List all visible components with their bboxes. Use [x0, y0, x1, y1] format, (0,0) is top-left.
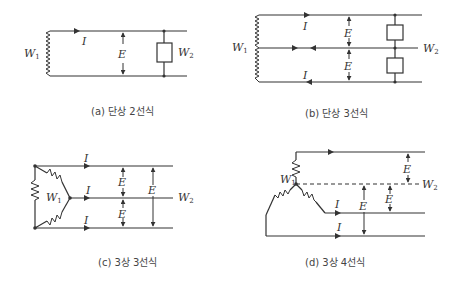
source-coil-icon — [255, 15, 259, 82]
caption-c: (c) 3상 3선식 — [98, 257, 157, 268]
caption-a: (a) 단상 2선식 — [91, 106, 154, 117]
svg-text:E: E — [343, 60, 352, 73]
svg-text:E: E — [358, 200, 367, 213]
svg-text:I: I — [83, 152, 89, 165]
load-label: W2 — [178, 46, 194, 60]
load-box-icon — [387, 25, 403, 40]
svg-text:I: I — [336, 221, 342, 234]
source-coil-icon — [46, 31, 50, 76]
svg-text:W2: W2 — [422, 178, 438, 192]
svg-text:W2: W2 — [178, 191, 194, 205]
svg-text:I: I — [302, 20, 308, 33]
svg-text:W1: W1 — [280, 173, 296, 187]
svg-text:W1: W1 — [46, 191, 62, 205]
svg-text:E: E — [343, 27, 352, 40]
svg-text:W1: W1 — [232, 41, 248, 55]
svg-text:I: I — [334, 198, 340, 211]
caption-d: (d) 3상 4선식 — [305, 257, 365, 268]
voltage-label: E — [117, 48, 126, 61]
svg-text:I: I — [83, 214, 89, 227]
current-arrow-icon — [74, 28, 80, 34]
panel-a-single-phase-two-wire: I W1 E W2 (a) 단상 2선식 — [24, 28, 194, 117]
resistor-icon — [31, 180, 39, 200]
panel-b-single-phase-three-wire: I I W1 E E W2 (b) 단상 3선식 — [232, 12, 439, 119]
svg-text:I: I — [302, 69, 308, 82]
svg-text:W2: W2 — [423, 42, 439, 56]
svg-text:E: E — [384, 193, 393, 206]
svg-text:E: E — [402, 163, 411, 176]
source-label: W1 — [24, 47, 40, 61]
svg-text:E: E — [117, 208, 126, 221]
load-box-icon — [157, 43, 172, 62]
svg-text:E: E — [117, 176, 126, 189]
resistor-icon — [292, 160, 300, 177]
svg-text:E: E — [147, 184, 156, 197]
panel-c-three-phase-three-wire: W1 I I I E E E W2 (c) 3상 3선식 — [31, 152, 194, 268]
caption-b: (b) 단상 3선식 — [305, 108, 368, 119]
panel-d-three-phase-four-wire: W1 I I E E E W2 (d) 3상 4선식 — [266, 149, 438, 268]
current-label: I — [81, 35, 87, 48]
svg-text:I: I — [85, 184, 91, 197]
load-box-icon — [387, 58, 403, 73]
